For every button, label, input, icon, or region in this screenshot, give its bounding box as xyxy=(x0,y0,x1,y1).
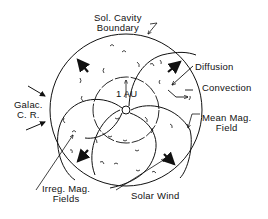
transport-arrows xyxy=(168,66,193,97)
diffusion-label: Diffusion xyxy=(195,62,234,72)
galactic-cr-label: Galac. C. R. xyxy=(14,100,43,120)
mean-field-label-line2: Field xyxy=(202,123,251,133)
convection-label: Convection xyxy=(202,83,252,93)
solar-wind-label: Solar Wind xyxy=(131,191,179,201)
irregular-fields-label-line2: Fields xyxy=(42,194,90,204)
cavity-boundary-label: Sol. Cavity Boundary xyxy=(94,13,142,33)
sun xyxy=(122,106,130,114)
irregular-fields-label: Irreg. Mag. Fields xyxy=(42,184,90,204)
mean-field-label: Mean Mag. Field xyxy=(202,113,251,133)
galactic-cr-label-line2: C. R. xyxy=(14,110,43,120)
au-label: 1 AU xyxy=(116,89,137,99)
leader-lines xyxy=(36,23,200,190)
cavity-boundary-label-line2: Boundary xyxy=(94,23,142,33)
